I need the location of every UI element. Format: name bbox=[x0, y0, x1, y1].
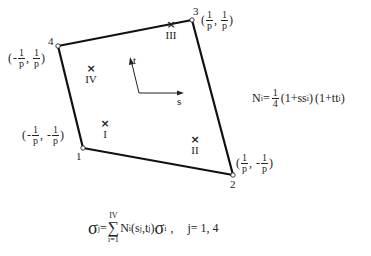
node-3-label: 3 bbox=[193, 6, 199, 17]
node-4-label: 4 bbox=[48, 36, 54, 47]
t-axis-label: t bbox=[133, 55, 136, 66]
gauss-point-II: × II bbox=[187, 134, 203, 156]
node-1-label: 1 bbox=[76, 151, 82, 162]
node-1-coordinate: (- 1p , - 1p) bbox=[22, 125, 64, 146]
s-axis-label: s bbox=[177, 96, 181, 107]
shape-function-equation: Ni = 14 (1+ssi) (1+tti) bbox=[252, 88, 345, 109]
quadrilateral-element bbox=[58, 20, 233, 175]
node-3-coordinate: ( 1p , 1p) bbox=[201, 10, 233, 31]
extrapolation-equation: σj = IV ∑ i=1 Ni (sj ,tj ) σi , j= 1, 4 bbox=[88, 212, 219, 244]
node-2-marker bbox=[231, 173, 235, 177]
node-2-label: 2 bbox=[230, 179, 236, 190]
gauss-point-III: × III bbox=[162, 19, 180, 41]
gauss-point-IV: × IV bbox=[82, 63, 100, 85]
node-4-marker bbox=[56, 44, 60, 48]
gauss-point-I: × I bbox=[98, 118, 112, 140]
node-3-marker bbox=[190, 18, 194, 22]
node-4-coordinate: (- 1p , 1p) bbox=[8, 48, 45, 69]
node-2-coordinate: ( 1p , - 1p) bbox=[236, 153, 273, 174]
